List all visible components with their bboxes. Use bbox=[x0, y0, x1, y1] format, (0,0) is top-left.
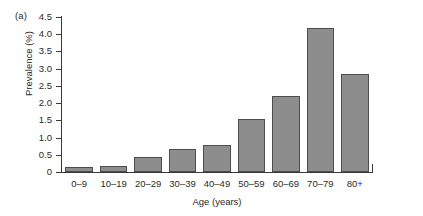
bar bbox=[134, 157, 162, 172]
bar bbox=[169, 149, 197, 172]
y-axis-tick-label: 3.5 bbox=[16, 46, 52, 56]
bar bbox=[307, 28, 335, 172]
bar bbox=[65, 167, 93, 172]
x-axis-tick-label: 80+ bbox=[338, 178, 372, 189]
y-axis-tick-label: 0.5 bbox=[16, 150, 52, 160]
y-axis-tick-label: 4.5 bbox=[16, 12, 52, 22]
bar-chart-figure: (a) Prevalence (%) Age (years) 00.51.01.… bbox=[0, 0, 423, 216]
y-axis-tick-label: 4.0 bbox=[16, 29, 52, 39]
bar bbox=[203, 145, 231, 172]
plot-area bbox=[62, 17, 372, 172]
x-axis-tick-label: 70–79 bbox=[303, 178, 337, 189]
y-axis-tick-label: 1.0 bbox=[16, 133, 52, 143]
y-axis-tick bbox=[56, 172, 62, 173]
bar bbox=[272, 96, 300, 172]
x-axis-tick-label: 10–19 bbox=[96, 178, 130, 189]
y-axis-tick-label: 2.5 bbox=[16, 81, 52, 91]
x-axis-line bbox=[61, 172, 373, 173]
bar bbox=[100, 166, 128, 172]
x-axis-tick-label: 30–39 bbox=[165, 178, 199, 189]
x-axis-tick-label: 0–9 bbox=[62, 178, 96, 189]
x-axis-tick-label: 60–69 bbox=[269, 178, 303, 189]
y-axis-tick-label: 0 bbox=[16, 167, 52, 177]
x-axis-end-tick bbox=[372, 164, 373, 173]
x-axis-tick-label: 50–59 bbox=[234, 178, 268, 189]
y-axis-tick-label: 1.5 bbox=[16, 115, 52, 125]
x-axis-title: Age (years) bbox=[62, 196, 372, 207]
x-axis-tick-label: 40–49 bbox=[200, 178, 234, 189]
bar bbox=[341, 74, 369, 172]
y-axis-tick-label: 2.0 bbox=[16, 98, 52, 108]
bar bbox=[238, 119, 266, 172]
x-axis-tick-label: 20–29 bbox=[131, 178, 165, 189]
y-axis-tick-label: 3.0 bbox=[16, 64, 52, 74]
